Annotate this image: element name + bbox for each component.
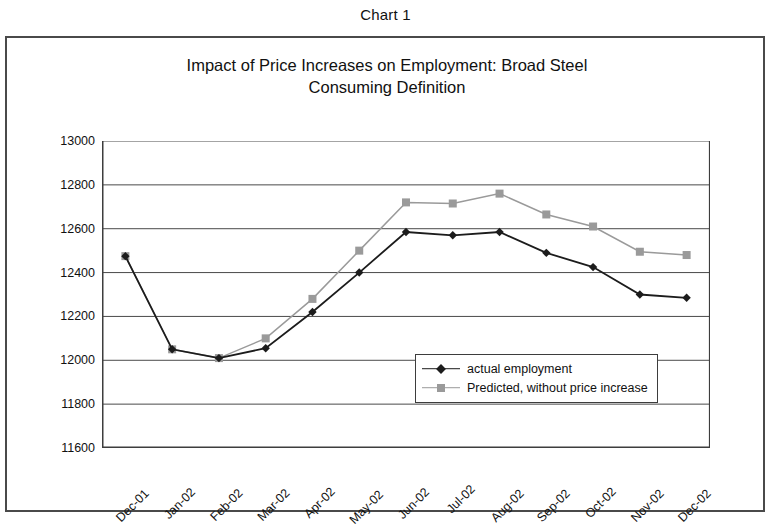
x-tick-label-text: Apr-02 [302,485,338,521]
datapoint-predicted-4 [308,295,316,303]
legend-entry-predicted: Predicted, without price increase [422,378,648,397]
x-tick-label: Jan-02 [188,458,225,495]
legend-swatch-actual [422,362,460,376]
legend-label-predicted: Predicted, without price increase [467,381,648,395]
datapoint-predicted-11 [636,248,644,256]
x-tick-label: Mar-02 [282,458,320,496]
y-tick-label: 12800 [60,178,95,192]
x-tick-label-text: Oct-02 [583,485,619,521]
x-tick-label-text: Feb-02 [207,486,245,524]
y-tick-label: 12200 [60,309,95,323]
x-tick-label-text: Dec-02 [675,486,713,524]
chart-frame: Impact of Price Increases on Employment:… [5,36,765,512]
y-tick-label: 12000 [60,353,95,367]
x-tick-label: Sep-02 [563,458,601,496]
x-tick-label: Apr-02 [328,458,364,494]
x-tick-label-text: May-02 [347,487,386,526]
chart-legend: actual employment Predicted, without pri… [415,354,658,403]
series-line-predicted [125,194,686,358]
legend-swatch-predicted [422,381,460,395]
datapoint-predicted-5 [355,247,363,255]
x-tick-label-text: Aug-02 [488,487,526,525]
x-tick-label: Jun-02 [422,458,459,495]
y-tick-label: 12600 [60,222,95,236]
x-tick-label-text: Jun-02 [395,485,432,522]
datapoint-actual-9 [542,249,550,257]
x-tick-label-text: Nov-02 [628,486,666,524]
datapoint-actual-10 [589,263,597,271]
x-tick-label-text: Dec-01 [114,486,152,524]
x-tick-label-text: Jul-02 [444,482,478,516]
y-tick-label: 11800 [61,397,95,411]
series-line-actual [125,232,686,358]
x-tick-label-text: Sep-02 [535,487,573,525]
chart-title: Impact of Price Increases on Employment:… [67,54,707,98]
datapoint-predicted-7 [449,200,457,208]
x-tick-label-text: Mar-02 [254,486,292,524]
x-tick-label: Dec-02 [703,458,741,496]
datapoint-predicted-12 [683,251,691,259]
x-tick-label: Oct-02 [609,458,645,494]
x-tick-label: Jul-02 [468,458,502,492]
datapoint-actual-12 [682,294,690,302]
plot-area: 1160011800120001220012400126001280013000… [102,141,710,448]
legend-label-actual: actual employment [467,362,572,376]
y-tick-label: 12400 [60,266,95,280]
datapoint-predicted-3 [262,334,270,342]
figure-caption: Chart 1 [0,6,771,23]
chart-title-line-1: Impact of Price Increases on Employment:… [67,54,707,76]
x-tick-label: Feb-02 [236,458,274,496]
x-tick-label: Dec-01 [142,458,180,496]
diamond-marker-icon [436,364,446,374]
datapoint-predicted-8 [496,190,504,198]
square-marker-icon [437,384,445,392]
y-tick-label: 11600 [61,441,95,455]
datapoint-predicted-9 [542,210,550,218]
datapoint-actual-11 [636,290,644,298]
x-tick-label: Aug-02 [516,458,554,496]
x-tick-label: Nov-02 [657,458,695,496]
datapoint-predicted-10 [589,223,597,231]
chart-title-line-2: Consuming Definition [67,76,707,98]
datapoint-predicted-6 [402,198,410,206]
legend-entry-actual: actual employment [422,359,648,378]
y-tick-label: 13000 [60,134,95,148]
x-tick-label-text: Jan-02 [161,485,198,522]
x-tick-label: May-02 [376,458,415,497]
datapoint-actual-7 [449,231,457,239]
